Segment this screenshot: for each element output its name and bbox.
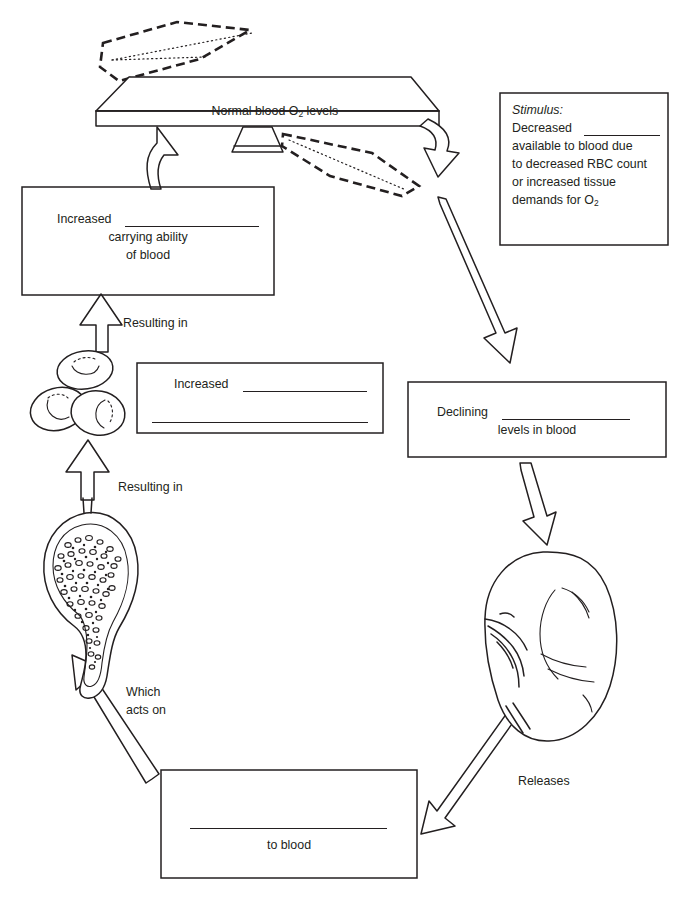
bone-marrow-art xyxy=(44,498,138,698)
stimulus-line-4: or increased tissue xyxy=(512,175,616,190)
connector-label-resulting-in-upper: Resulting in xyxy=(123,316,188,331)
arrow-up-to-balance xyxy=(147,127,178,189)
stimulus-line-2: available to blood due xyxy=(512,139,633,154)
increased-blank-line-1-rule[interactable] xyxy=(243,391,367,392)
balance-tilted-right-ghost xyxy=(282,134,419,196)
declining-line-1: Declining xyxy=(437,405,491,420)
increased-carrying-blank-line[interactable] xyxy=(125,226,259,227)
connector-label-releases: Releases xyxy=(518,774,570,789)
increased-carrying-line-3: of blood xyxy=(126,248,170,263)
arrow-stimulus-to-declining xyxy=(438,197,517,363)
to-blood-line-2: to blood xyxy=(267,838,311,853)
increased-blank-line-1: Increased xyxy=(174,377,232,392)
to-blood-box-outline xyxy=(161,770,417,878)
balance-tilted-left-ghost xyxy=(100,22,252,81)
increased-carrying-line-1: Increased xyxy=(57,212,115,227)
kidney-art xyxy=(485,552,617,741)
declining-line-2: levels in blood xyxy=(498,423,577,438)
increased-carrying-line-2: carrying ability xyxy=(108,230,187,245)
stimulus-line-5: demands for O2 xyxy=(512,193,599,209)
connector-label-which-acts-on-line2: acts on xyxy=(126,703,166,718)
diagram-artwork: .ln { fill:none; stroke:#231f20; stroke-… xyxy=(0,0,694,908)
red-blood-cells-art xyxy=(25,347,128,439)
to-blood-blank-line[interactable] xyxy=(190,828,387,829)
stimulus-heading: Stimulus: xyxy=(512,103,563,118)
increased-blank-line-2-rule[interactable] xyxy=(152,422,368,423)
arrow-rbc-to-carrying-ability xyxy=(80,294,122,352)
arrow-marrow-to-rbc xyxy=(66,440,109,500)
stimulus-line-1: Decreased xyxy=(512,121,575,136)
connector-label-which-acts-on-line1: Which xyxy=(126,685,160,700)
worksheet-page: .ln { fill:none; stroke:#231f20; stroke-… xyxy=(0,0,694,908)
balance-beam-label: Normal blood O2 levels xyxy=(198,89,338,135)
stimulus-line-3: to decreased RBC count xyxy=(512,157,647,172)
stimulus-blank-line[interactable] xyxy=(584,135,660,136)
declining-blank-line[interactable] xyxy=(502,419,630,420)
o2-subscript: 2 xyxy=(594,198,599,208)
connector-label-resulting-in-lower: Resulting in xyxy=(118,480,183,495)
arrow-beam-right-down xyxy=(420,119,459,177)
arrow-declining-to-kidney xyxy=(520,463,556,545)
